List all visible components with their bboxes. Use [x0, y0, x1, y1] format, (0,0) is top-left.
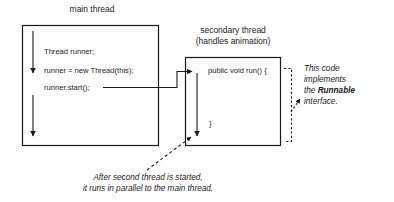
bottom-caption-line1: After second thread is started,	[46, 172, 250, 183]
main-thread-label: main thread	[52, 5, 132, 15]
runnable-note-prefix: the	[304, 86, 318, 95]
runnable-pointer	[291, 99, 300, 112]
code-line-thread-runner: Thread runner;	[44, 48, 94, 57]
code-line-public-void-run: public void run() {	[208, 67, 267, 76]
runnable-note-line4: interface.	[304, 97, 338, 108]
caption-leader-line	[147, 137, 191, 170]
runnable-note-line3: the Runnable	[304, 86, 355, 97]
secondary-thread-label-line2: (handles animation)	[182, 37, 284, 47]
thread-diagram: main thread secondary thread (handles an…	[0, 0, 394, 202]
runnable-note-line2: implements	[304, 75, 346, 86]
code-line-runner-start: runner.start();	[44, 84, 90, 93]
main-thread-box	[23, 26, 159, 146]
code-line-closing-brace: }	[209, 120, 212, 129]
code-line-new-thread: runner = new Thread(this);	[44, 67, 134, 76]
secondary-thread-label-line1: secondary thread	[182, 26, 284, 36]
runnable-bracket	[284, 69, 292, 142]
bottom-caption-line2: it runs in parallel to the main thread.	[46, 183, 250, 194]
runnable-keyword: Runnable	[318, 86, 355, 95]
runnable-note-line1: This code	[304, 64, 340, 75]
